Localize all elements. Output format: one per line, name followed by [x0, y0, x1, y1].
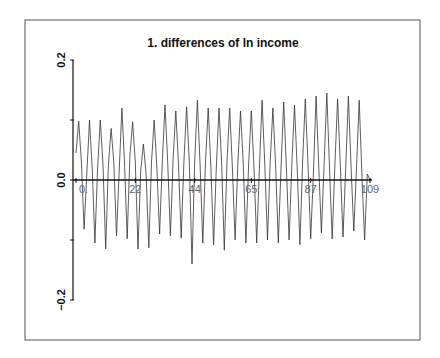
y-tick-label: 0.0 [55, 172, 67, 187]
x-tick-label: 65 [245, 183, 257, 195]
series-line-0 [76, 93, 370, 264]
x-tick-label: 22 [129, 183, 141, 195]
x-tick-label: 109 [361, 183, 379, 195]
x-tick-label: 44 [189, 183, 201, 195]
y-axis: −0.20.00.2 [55, 52, 74, 311]
chart-canvas: 1. differences of ln income −0.20.00.2 0… [0, 0, 440, 358]
y-tick-label: 0.2 [55, 52, 67, 67]
x-tick-label: 0. [79, 183, 88, 195]
chart-figure: 1. differences of ln income −0.20.00.2 0… [0, 0, 440, 358]
y-tick-label: −0.2 [55, 289, 67, 311]
x-tick-label: 87 [305, 183, 317, 195]
chart-title: 1. differences of ln income [147, 36, 299, 50]
data-series-line [76, 93, 370, 264]
